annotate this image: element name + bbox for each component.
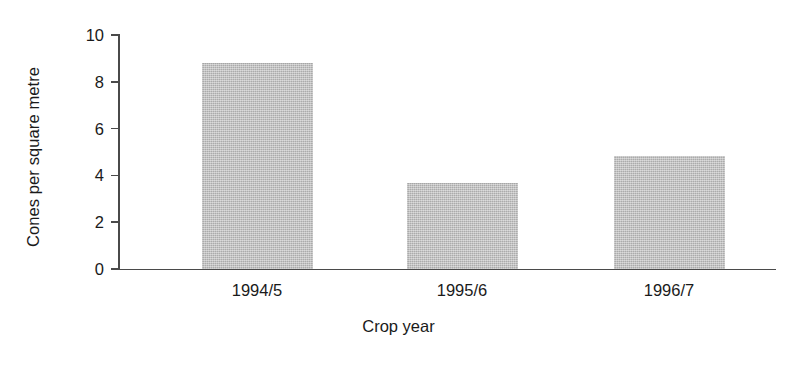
y-axis-tick	[111, 81, 119, 83]
x-axis-line	[118, 269, 776, 271]
x-axis-tick-label: 1994/5	[232, 282, 282, 299]
y-axis-tick	[111, 221, 119, 223]
y-axis-tick	[111, 128, 119, 130]
y-axis-tick	[111, 175, 119, 177]
plot-area: 0246810 1994/51995/61996/7	[118, 24, 778, 270]
x-axis-title: Crop year	[0, 318, 797, 335]
y-axis-tick-label: 0	[70, 261, 104, 278]
y-axis-tick-label: 4	[70, 167, 104, 184]
x-axis-tick-label: 1996/7	[644, 282, 694, 299]
x-axis-tick-label: 1995/6	[437, 282, 487, 299]
bar-chart-figure: Cones per square metre 0246810 1994/5199…	[0, 0, 797, 369]
y-axis-tick-label: 6	[70, 120, 104, 137]
y-axis-tick-label: 2	[70, 214, 104, 231]
bar	[407, 183, 518, 268]
y-axis-tick	[111, 34, 119, 36]
y-axis-tick-label: 8	[70, 74, 104, 91]
bar	[202, 63, 313, 269]
y-axis-tick-label: 10	[70, 27, 104, 44]
bar	[614, 156, 725, 268]
y-axis-title: Cones per square metre	[21, 22, 45, 292]
y-axis-tick	[111, 268, 119, 270]
y-axis-line	[118, 34, 120, 270]
